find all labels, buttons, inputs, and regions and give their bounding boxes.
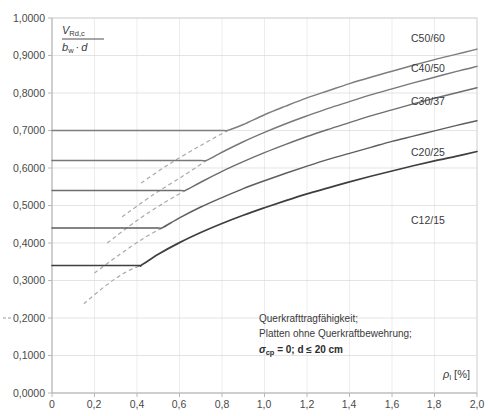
- curve-label-c40: C40/50: [411, 62, 445, 74]
- svg-text:bw·d: bw·d: [62, 41, 88, 55]
- y-tick-label-08: 0,8000: [13, 87, 45, 99]
- y-axis-ticks: [48, 18, 52, 393]
- y-tick-label-00: 0,0000: [13, 387, 45, 399]
- y-tick-label-04: 0,4000: [13, 237, 45, 249]
- y-tick-label-03: 0,3000: [13, 274, 45, 286]
- x-tick-label-16: 1,6: [385, 398, 400, 410]
- annotation-line-3-rest: = 0; d ≤ 20 cm: [274, 344, 343, 355]
- y-tick-label-07: 0,7000: [13, 124, 45, 136]
- x-tick-label-06: 0,6: [172, 398, 187, 410]
- y-tick-label-09: 0,9000: [13, 49, 45, 61]
- y-tick-label-02: 0,2000: [13, 312, 45, 324]
- annotation-line-1: Querkrafttragfähigkeit;: [259, 313, 358, 324]
- x-tick-label-10: 1,0: [257, 398, 272, 410]
- x-tick-label-14: 1,4: [342, 398, 357, 410]
- curve-label-c30: C30/37: [411, 95, 445, 107]
- x-tick-label-08: 0,8: [215, 398, 230, 410]
- x-tick-label-12: 1,2: [300, 398, 315, 410]
- y-tick-label-1: 1,0000: [13, 12, 45, 24]
- x-tick-label-02: 0,2: [87, 398, 102, 410]
- x-axis-title-unit: [%]: [454, 368, 470, 380]
- y-tick-label-06: 0,6000: [13, 162, 45, 174]
- annotation-line-2: Platten ohne Querkraftbewehrung;: [259, 328, 412, 339]
- x-tick-label-0: 0: [49, 398, 55, 410]
- y-axis-title-denominator-d: d: [81, 41, 88, 53]
- y-axis-title-numerator-sub: Rd,c: [69, 29, 85, 38]
- x-axis-title: ρl[%]: [442, 368, 470, 382]
- y-axis-title-dot: ·: [76, 41, 80, 53]
- x-axis-ticks: [52, 393, 477, 397]
- y-axis-title-denominator-b-sub: w: [67, 46, 74, 55]
- chart-svg: 1,0000 0,9000 0,8000 0,7000 0,6000 0,500…: [0, 0, 491, 416]
- x-tick-label-18: 1,8: [427, 398, 442, 410]
- chart-container: 1,0000 0,9000 0,8000 0,7000 0,6000 0,500…: [0, 0, 491, 416]
- curve-label-c12: C12/15: [411, 214, 445, 226]
- curve-label-c50: C50/60: [411, 32, 445, 44]
- y-tick-label-01: 0,1000: [13, 349, 45, 361]
- x-tick-label-04: 0,4: [130, 398, 145, 410]
- curve-label-c20: C20/25: [411, 146, 445, 158]
- x-axis-title-rho: ρ: [442, 368, 449, 380]
- x-tick-label-20: 2,0: [470, 398, 485, 410]
- y-tick-label-05: 0,5000: [13, 199, 45, 211]
